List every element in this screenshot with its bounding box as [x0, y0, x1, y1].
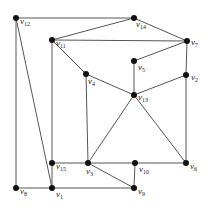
node-v12: [13, 15, 19, 21]
node-v13: [131, 92, 137, 98]
label-v5: v5: [138, 62, 145, 73]
label-v9: v9: [138, 186, 145, 197]
node-v15: [49, 160, 55, 166]
label-v6: v6: [190, 161, 197, 172]
label-v10: v10: [139, 164, 149, 175]
edge-v3-v9: [88, 163, 134, 188]
node-v1: [49, 185, 55, 191]
edge-v4-v3: [86, 74, 88, 163]
edge-v13-v6: [134, 95, 186, 163]
node-v2: [183, 72, 189, 78]
edge-v10-v9: [134, 163, 135, 188]
edge-v2-v7: [186, 41, 187, 75]
node-v6: [183, 160, 189, 166]
edge-v13-v3: [88, 95, 134, 163]
edge-v5-v7: [134, 41, 187, 61]
node-v11: [49, 37, 55, 43]
label-v13: v13: [138, 92, 148, 103]
label-v2: v2: [191, 72, 198, 83]
edge-layer: [16, 18, 187, 188]
label-layer: v12v14v11v7v5v4v2v13v15v3v10v6v8v1v9: [20, 16, 198, 200]
node-v10: [132, 160, 138, 166]
node-v7: [184, 38, 190, 44]
node-layer: [13, 15, 190, 191]
node-v5: [131, 58, 137, 64]
label-v3: v3: [86, 166, 93, 177]
label-v1: v1: [56, 189, 63, 200]
graph-diagram: v12v14v11v7v5v4v2v13v15v3v10v6v8v1v9: [0, 0, 212, 210]
node-v9: [131, 185, 137, 191]
label-v7: v7: [191, 37, 198, 48]
edge-v11-v7: [52, 40, 187, 41]
edge-v14-v11: [52, 18, 134, 40]
node-v8: [13, 185, 19, 191]
edge-v12-v1: [16, 18, 52, 188]
